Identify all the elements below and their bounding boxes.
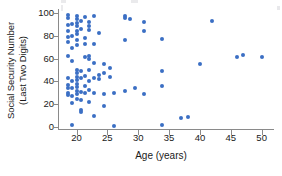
y-axis-tick-mark [53, 127, 58, 128]
data-point [83, 42, 87, 46]
scatter-plot-figure: Social Security Number (Last Two Digits)… [0, 0, 282, 176]
data-point [83, 74, 87, 78]
y-axis-label-line2: (Last Two Digits) [17, 21, 29, 118]
data-point [97, 73, 101, 77]
data-point [133, 86, 137, 90]
x-axis-tick-labels: 20253035404550 [0, 133, 282, 147]
data-point [70, 123, 74, 127]
data-point [79, 110, 83, 114]
y-axis-tick-label: 80 [32, 31, 54, 41]
data-point [83, 91, 87, 95]
data-point [235, 55, 239, 59]
data-point [92, 42, 96, 46]
data-point [70, 46, 74, 50]
cropped-text-artifact [131, 0, 138, 3]
y-axis-tick-mark [53, 59, 58, 60]
data-point [70, 86, 74, 90]
y-axis-tick-label: 20 [32, 99, 54, 109]
data-point [70, 34, 74, 38]
data-point [92, 14, 96, 18]
data-point [142, 20, 146, 24]
x-axis-tick-mark [169, 130, 170, 135]
data-point [142, 92, 146, 96]
x-axis-label: Age (years) [56, 150, 266, 161]
data-point [87, 68, 91, 72]
data-point [112, 124, 116, 128]
data-point [66, 54, 70, 58]
data-point [70, 22, 74, 26]
data-point [79, 27, 83, 31]
x-axis-tick-mark [200, 130, 201, 135]
data-point [92, 114, 96, 118]
data-point [92, 76, 96, 80]
y-axis-tick-mark [53, 36, 58, 37]
data-point [102, 71, 106, 75]
y-axis-tick-labels: 020406080100 [30, 0, 54, 140]
data-point [87, 28, 91, 32]
data-point [102, 104, 106, 108]
data-point [186, 115, 190, 119]
data-point [108, 75, 112, 79]
y-axis-tick-mark [53, 81, 58, 82]
data-point [260, 55, 264, 59]
data-point [66, 29, 70, 33]
data-point [87, 57, 91, 61]
data-point [241, 53, 245, 57]
data-point [79, 19, 83, 23]
data-point [102, 62, 106, 66]
data-point [97, 77, 101, 81]
data-point [79, 98, 83, 102]
data-point [75, 43, 79, 47]
data-point [75, 24, 79, 28]
data-point [87, 88, 91, 92]
data-point [123, 16, 127, 20]
data-point [92, 91, 96, 95]
data-point [179, 116, 183, 120]
data-point [160, 84, 164, 88]
cropped-text-artifact [61, 0, 66, 3]
y-axis-tick-mark [53, 13, 58, 14]
y-axis-tick-label: 0 [32, 122, 54, 132]
y-axis-tick-label: 60 [32, 54, 54, 64]
data-point [87, 20, 91, 24]
data-point [87, 100, 91, 104]
data-point [160, 123, 164, 127]
plot-area [58, 8, 274, 132]
y-axis-tick-label: 100 [32, 8, 54, 18]
data-point [70, 94, 74, 98]
data-point [210, 19, 214, 23]
x-axis-tick-mark [77, 130, 78, 135]
data-point [75, 32, 79, 36]
data-point [160, 69, 164, 73]
data-point [83, 84, 87, 88]
x-axis-tick-mark [231, 130, 232, 135]
data-point [108, 66, 112, 70]
data-point [198, 62, 202, 66]
x-axis-tick-mark [138, 130, 139, 135]
edge-artifact [277, 6, 280, 10]
data-point [70, 59, 74, 63]
data-point [123, 38, 127, 42]
data-point [102, 92, 106, 96]
y-axis-tick-label: 40 [32, 76, 54, 86]
data-point [75, 38, 79, 42]
data-point [83, 15, 87, 19]
data-point [87, 79, 91, 83]
data-point [160, 37, 164, 41]
data-point [70, 79, 74, 83]
x-axis-tick-mark [107, 130, 108, 135]
data-point [66, 16, 70, 20]
data-point [112, 91, 116, 95]
y-axis-label-line1: Social Security Number [6, 21, 17, 118]
data-point [123, 89, 127, 93]
data-point [92, 61, 96, 65]
data-point [66, 40, 70, 44]
data-point [79, 69, 83, 73]
data-point [128, 17, 132, 21]
data-point [75, 92, 79, 96]
data-point [83, 36, 87, 40]
y-axis-label: Social Security Number (Last Two Digits) [0, 0, 34, 140]
data-point [97, 31, 101, 35]
data-point [70, 101, 74, 105]
data-point [142, 29, 146, 33]
